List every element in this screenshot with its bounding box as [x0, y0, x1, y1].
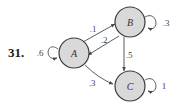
edge-label-a-to-b: .1: [90, 24, 97, 34]
self-loop-label-a: .6: [37, 48, 44, 58]
edge-b-to-a: .2: [88, 35, 119, 55]
problem-number: 31.: [8, 45, 24, 60]
self-loop-c: 1: [145, 79, 166, 92]
edge-label-b-to-c: .5: [126, 50, 133, 60]
self-loop-label-c: 1: [162, 81, 167, 91]
self-loop-b: .3: [145, 16, 170, 29]
node-a: A: [59, 38, 89, 68]
node-label-c: C: [127, 81, 134, 92]
node-c: C: [115, 71, 145, 101]
self-loop-label-b: .3: [163, 18, 170, 28]
markov-chain-diagram: 31. .1 .2 .5 .3 .6 .3 1 A B: [0, 0, 177, 107]
edge-a-to-c: .3: [85, 65, 113, 88]
self-loop-a: .6: [37, 47, 58, 59]
edge-a-to-b: .1: [83, 24, 115, 42]
edge-b-to-c: .5: [124, 37, 133, 71]
node-b: B: [115, 7, 145, 37]
edge-label-b-to-a: .2: [101, 35, 108, 45]
edge-label-a-to-c: .3: [89, 78, 96, 88]
node-label-b: B: [127, 17, 133, 28]
node-label-a: A: [70, 48, 78, 59]
